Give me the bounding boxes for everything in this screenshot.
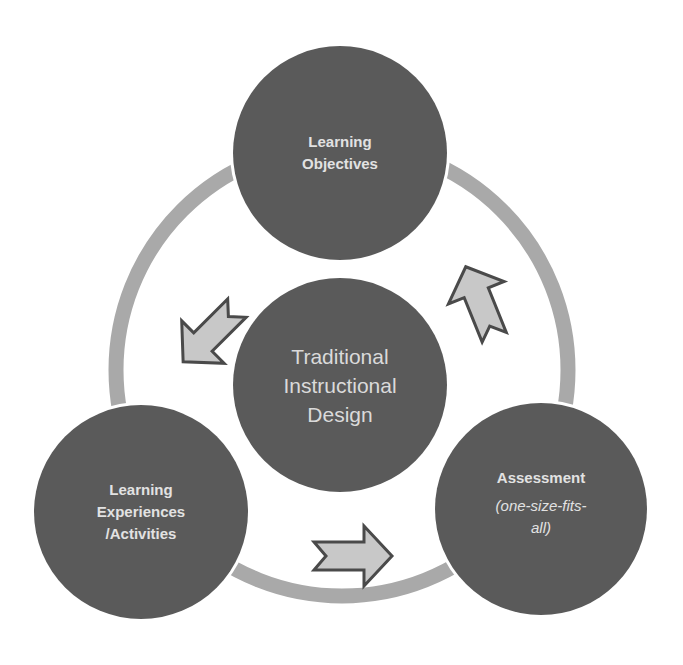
center-label: Traditional Instructional Design: [250, 335, 430, 435]
node-label-line: Objectives: [302, 153, 378, 175]
node-subtitle-line: all): [531, 517, 551, 539]
node-label-line: Experiences: [97, 501, 185, 523]
center-label-line: Instructional: [283, 371, 396, 400]
center-label-line: Design: [307, 400, 372, 429]
node-label-line: Learning: [308, 131, 371, 153]
node-label-line: /Activities: [106, 523, 177, 545]
node-learning-objectives-label: Learning Objectives: [260, 110, 420, 196]
center-label-line: Traditional: [291, 342, 388, 371]
arrow-right-icon: [314, 526, 392, 586]
instructional-design-cycle-diagram: Learning Objectives Traditional Instruct…: [0, 0, 683, 665]
node-label-line: Learning: [109, 479, 172, 501]
node-learning-experiences-label: Learning Experiences /Activities: [61, 465, 221, 559]
node-label-title: Assessment: [497, 467, 585, 489]
node-subtitle-line: (one-size-fits-: [496, 495, 587, 517]
arrow-up-icon: [438, 256, 522, 349]
diagram-canvas: [0, 0, 683, 665]
node-label-subtitle: (one-size-fits- all): [496, 495, 587, 539]
node-assessment-label: Assessment (one-size-fits- all): [461, 455, 621, 565]
